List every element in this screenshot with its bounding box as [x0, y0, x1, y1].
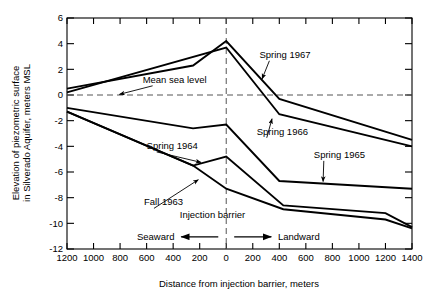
y-axis-ticks-right [405, 18, 412, 249]
annotation-spring-1966: Spring 1966 [257, 126, 308, 137]
leader-spring-1964 [157, 152, 201, 162]
y-axis-title-line2: in Silverado Aquifer, meters MSL [21, 64, 32, 202]
x-tick-label: 1000 [348, 252, 369, 263]
y-tick-label: -12 [49, 243, 63, 254]
x-tick-label: 0 [224, 252, 229, 263]
annotation-injection-barrier: Injection barrier [180, 209, 245, 220]
x-tick-label: 1400 [401, 252, 422, 263]
y-tick-label: 2 [58, 64, 63, 75]
y-tick-label: -8 [55, 192, 63, 203]
y-tick-label: 4 [58, 38, 63, 49]
series-line-spring-1967 [67, 41, 412, 140]
x-tick-label: 600 [139, 252, 155, 263]
x-tick-label: 800 [112, 252, 128, 263]
y-axis-tick-labels: -12-10-8-6-4-20246 [49, 12, 63, 254]
y-tick-label: 0 [58, 89, 63, 100]
x-axis-title: Distance from injection barrier, meters [159, 278, 319, 289]
y-axis-title-line1: Elevation of piezometric surface [10, 66, 21, 201]
x-tick-label: 400 [165, 252, 181, 263]
leader-spring-1967 [262, 61, 269, 79]
annotation-mean-sea-level: Mean sea level [143, 74, 207, 85]
direction-markers-group: SeawardLandward [137, 231, 320, 242]
x-tick-label: 200 [192, 252, 208, 263]
y-tick-label: -2 [55, 115, 63, 126]
x-axis-ticks [67, 243, 412, 249]
x-axis-ticks-top [67, 18, 412, 24]
series-line-spring-1966 [67, 48, 412, 147]
direction-label-landward: Landward [278, 231, 320, 242]
y-tick-label: -4 [55, 141, 63, 152]
annotation-spring-1964: Spring 1964 [147, 140, 198, 151]
x-tick-label: 800 [324, 252, 340, 263]
x-tick-label: 200 [245, 252, 261, 263]
annotation-spring-1967: Spring 1967 [259, 49, 310, 60]
x-axis-tick-labels: 1200100080060040020002004006008001000120… [56, 252, 422, 263]
x-tick-label: 1000 [83, 252, 104, 263]
leader-mean-sea-level [119, 86, 152, 95]
y-axis-ticks [67, 18, 74, 249]
y-tick-label: -6 [55, 166, 63, 177]
y-tick-label: 6 [58, 12, 63, 23]
piezometric-surface-chart: 1200100080060040020002004006008001000120… [0, 0, 446, 300]
leader-spring-1965 [323, 161, 324, 182]
x-tick-label: 1200 [375, 252, 396, 263]
x-tick-label: 600 [298, 252, 314, 263]
data-series-group [67, 41, 412, 228]
annotation-spring-1965: Spring 1965 [314, 149, 365, 160]
figure-container: 1200100080060040020002004006008001000120… [0, 0, 446, 300]
direction-label-seaward: Seaward [137, 231, 175, 242]
x-tick-label: 400 [271, 252, 287, 263]
y-tick-label: -10 [49, 218, 63, 229]
